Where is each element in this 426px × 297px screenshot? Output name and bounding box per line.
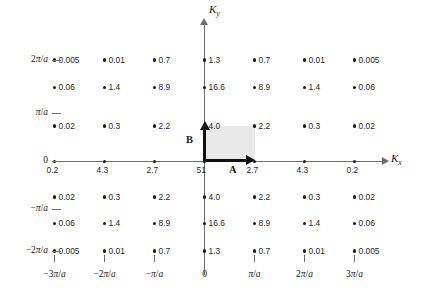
lattice-point <box>53 222 56 225</box>
y-axis-tick <box>52 161 61 162</box>
lattice-point-value: 0.06 <box>359 82 375 92</box>
reciprocal-lattice-figure: Kx Ky A B 0.0050.010.71.30.70.010.0050.0… <box>0 0 426 297</box>
lattice-point <box>153 160 156 163</box>
lattice-point-value: 0.06 <box>59 218 75 228</box>
lattice-point <box>253 86 256 89</box>
lattice-point-value: 4.0 <box>209 121 221 131</box>
y-axis-tick <box>52 251 61 252</box>
lattice-point-value: 0.02 <box>359 121 375 131</box>
lattice-point <box>353 195 356 198</box>
lattice-point <box>103 195 106 198</box>
lattice-point <box>353 160 356 163</box>
lattice-point-value: 0.3 <box>309 192 321 202</box>
lattice-point <box>203 222 206 225</box>
x-axis-tick-label: −2π/a <box>93 269 115 279</box>
lattice-point <box>303 222 306 225</box>
lattice-point-value: 0.3 <box>309 121 321 131</box>
lattice-point <box>253 222 256 225</box>
y-axis-tick <box>52 209 61 210</box>
lattice-point-value: 1.4 <box>109 82 121 92</box>
x-axis-tick <box>354 255 355 262</box>
lattice-point <box>353 222 356 225</box>
lattice-point <box>103 124 106 127</box>
x-axis-tick <box>154 255 155 262</box>
lattice-point <box>153 222 156 225</box>
lattice-vector-a-label: A <box>229 164 237 175</box>
lattice-point <box>153 58 156 61</box>
lattice-point-value: 8.9 <box>159 218 171 228</box>
lattice-point-value: 0.7 <box>159 246 171 256</box>
lattice-point <box>203 249 206 252</box>
lattice-point <box>203 58 206 61</box>
x-axis-tick-label: 3π/a <box>346 269 363 279</box>
lattice-vector-b-shaft <box>203 129 206 162</box>
x-axis-tick-label: 0 <box>202 269 207 279</box>
lattice-point <box>253 249 256 252</box>
lattice-point-value: 2.7 <box>247 165 259 175</box>
lattice-point-value: 2.2 <box>159 121 171 131</box>
x-axis-tick <box>104 255 105 262</box>
lattice-point-value: 0.005 <box>59 246 80 256</box>
lattice-point-value: 0.01 <box>309 55 325 65</box>
lattice-point-value: 1.4 <box>309 218 321 228</box>
lattice-point <box>253 160 256 163</box>
lattice-point <box>53 195 56 198</box>
lattice-point-value: 0.2 <box>47 165 59 175</box>
y-axis-tick-label: −π/a <box>30 203 48 213</box>
x-axis-tick <box>304 255 305 262</box>
y-axis-label: Ky <box>209 3 220 18</box>
lattice-point-value: 0.06 <box>359 218 375 228</box>
lattice-point-value: 16.6 <box>209 82 225 92</box>
y-axis-arrow-icon <box>200 18 208 25</box>
y-axis-tick-label: π/a <box>36 107 48 117</box>
x-axis-tick <box>254 255 255 262</box>
lattice-point-value: 0.3 <box>109 192 121 202</box>
lattice-point <box>353 86 356 89</box>
lattice-vector-a-shaft <box>204 159 248 162</box>
lattice-point-value: 0.005 <box>359 55 380 65</box>
lattice-point <box>103 58 106 61</box>
lattice-point-value: 8.9 <box>259 82 271 92</box>
lattice-point <box>353 249 356 252</box>
lattice-point <box>103 249 106 252</box>
lattice-point-value: 1.4 <box>109 218 121 228</box>
x-axis-label: Kx <box>391 152 402 167</box>
lattice-point <box>353 124 356 127</box>
lattice-point <box>203 195 206 198</box>
lattice-point-value: 0.7 <box>159 55 171 65</box>
x-axis-tick <box>54 255 55 262</box>
lattice-point-value: 0.06 <box>59 82 75 92</box>
lattice-point-value: 0.3 <box>109 121 121 131</box>
lattice-vector-b-label: B <box>186 134 193 145</box>
lattice-point-value: 0.01 <box>109 55 125 65</box>
lattice-point-value: 2.2 <box>159 192 171 202</box>
lattice-point-value: 4.0 <box>209 192 221 202</box>
lattice-point <box>253 58 256 61</box>
x-axis-tick-label: −3π/a <box>43 269 65 279</box>
lattice-point <box>303 195 306 198</box>
lattice-point-value: 8.9 <box>259 218 271 228</box>
lattice-point-value: 2.7 <box>147 165 159 175</box>
lattice-point-value: 0.01 <box>309 246 325 256</box>
lattice-point-value: 0.7 <box>259 246 271 256</box>
lattice-point <box>153 195 156 198</box>
lattice-point-value: 1.3 <box>209 246 221 256</box>
lattice-point <box>303 58 306 61</box>
lattice-point <box>203 86 206 89</box>
lattice-point <box>103 160 106 163</box>
x-axis-tick-label: π/a <box>248 269 260 279</box>
lattice-point-value: 0.02 <box>59 121 75 131</box>
lattice-point <box>303 86 306 89</box>
y-axis-tick-label: −2π/a <box>26 245 48 255</box>
lattice-point-value: 51 <box>197 165 206 175</box>
lattice-point <box>303 249 306 252</box>
lattice-point <box>153 124 156 127</box>
lattice-point <box>103 222 106 225</box>
lattice-point <box>203 160 206 163</box>
lattice-point-value: 0.02 <box>359 192 375 202</box>
lattice-point-value: 16.6 <box>209 218 225 228</box>
lattice-point <box>53 124 56 127</box>
lattice-point-value: 0.02 <box>59 192 75 202</box>
lattice-point-value: 0.7 <box>259 55 271 65</box>
lattice-point <box>103 86 106 89</box>
